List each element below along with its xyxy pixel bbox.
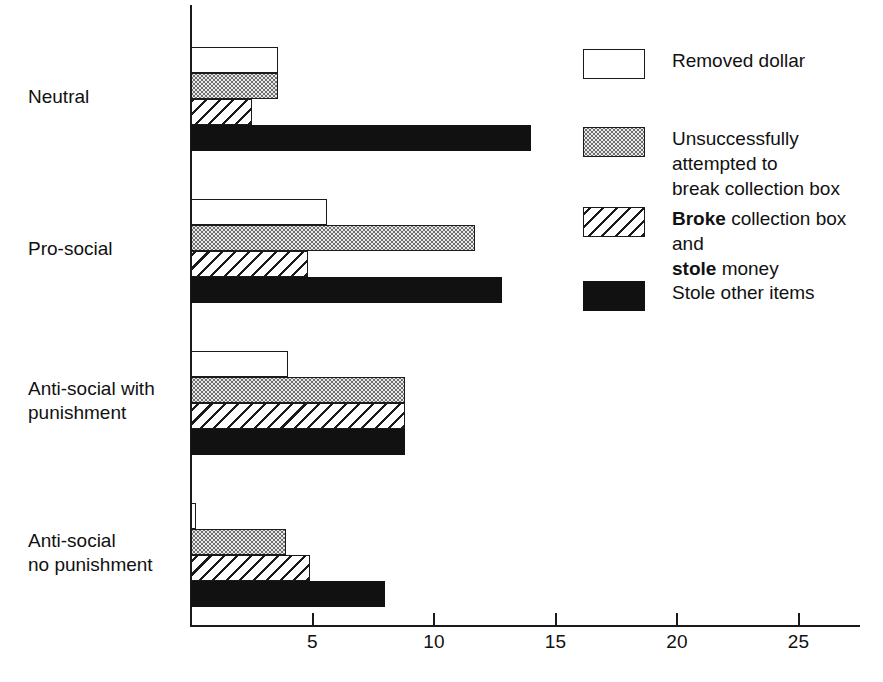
legend-swatch-dotted-icon: [583, 127, 645, 157]
legend-item-removed-dollar[interactable]: Removed dollar: [583, 48, 805, 79]
bar-neutral-broke-and-stole: [191, 99, 252, 125]
bar-chart: 510152025 NeutralPro-socialAnti-social w…: [0, 0, 883, 682]
legend-label-unsuccessful-break: Unsuccessfully attempted to break collec…: [672, 126, 883, 201]
category-label-anti-social-no-punishment: Anti-social no punishment: [28, 529, 183, 577]
bar-neutral-removed-dollar: [191, 47, 278, 73]
legend-label-broke-and-stole: Broke collection box andstole money: [672, 206, 883, 281]
x-axis-tick: [312, 613, 314, 625]
bar-pro-social-removed-dollar: [191, 199, 327, 225]
legend-item-unsuccessful-break[interactable]: Unsuccessfully attempted to break collec…: [583, 126, 883, 201]
bar-anti-social-no-punishment-unsuccessful-break: [191, 529, 286, 555]
x-axis-tick-label: 15: [545, 631, 567, 653]
x-axis-tick-label: 10: [423, 631, 445, 653]
category-label-anti-social-with-punishment: Anti-social with punishment: [28, 377, 183, 425]
bar-anti-social-no-punishment-broke-and-stole: [191, 555, 310, 581]
legend-label-stole-other-items: Stole other items: [672, 280, 815, 305]
bar-anti-social-no-punishment-removed-dollar: [191, 503, 196, 529]
legend-item-stole-other-items[interactable]: Stole other items: [583, 280, 815, 311]
legend-label-removed-dollar: Removed dollar: [672, 48, 805, 73]
legend-swatch-black-icon: [583, 281, 645, 311]
legend-swatch-white-icon: [583, 49, 645, 79]
legend-item-broke-and-stole[interactable]: Broke collection box andstole money: [583, 206, 883, 281]
category-label-pro-social: Pro-social: [28, 237, 183, 261]
x-axis-tick: [676, 613, 678, 625]
x-axis-tick-label: 20: [666, 631, 688, 653]
bar-pro-social-unsuccessful-break: [191, 225, 475, 251]
category-label-neutral: Neutral: [28, 85, 183, 109]
bar-anti-social-no-punishment-stole-other-items: [191, 581, 385, 607]
bar-neutral-stole-other-items: [191, 125, 531, 151]
bar-pro-social-broke-and-stole: [191, 251, 308, 277]
legend-swatch-hatched-icon: [583, 207, 645, 237]
bar-pro-social-stole-other-items: [191, 277, 502, 303]
x-axis-tick: [433, 613, 435, 625]
bar-neutral-unsuccessful-break: [191, 73, 278, 99]
bar-anti-social-with-punishment-unsuccessful-break: [191, 377, 405, 403]
x-axis-tick: [555, 613, 557, 625]
bar-anti-social-with-punishment-broke-and-stole: [191, 403, 405, 429]
x-axis-tick-label: 25: [788, 631, 810, 653]
x-axis-line: [190, 625, 860, 627]
x-axis-tick-label: 5: [307, 631, 318, 653]
x-axis-tick: [798, 613, 800, 625]
bar-anti-social-with-punishment-removed-dollar: [191, 351, 288, 377]
bar-anti-social-with-punishment-stole-other-items: [191, 429, 405, 455]
